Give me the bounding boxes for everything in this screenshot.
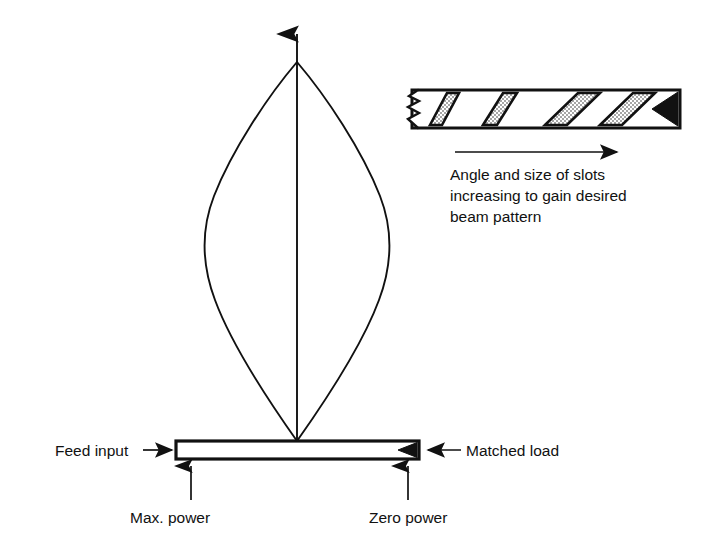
slotted-waveguide-bar xyxy=(176,441,419,459)
inset-caption-line-2: increasing to gain desired xyxy=(450,187,627,204)
zero-power-label: Zero power xyxy=(369,509,447,526)
feed-input-label: Feed input xyxy=(55,442,129,459)
max-power-label: Max. power xyxy=(130,509,210,526)
inset-caption-line-3: beam pattern xyxy=(450,208,541,225)
inset-caption-line-1: Angle and size of slots xyxy=(450,166,605,183)
figure-root: Feed input Matched load Max. power Zero … xyxy=(0,0,713,550)
matched-load-annotation: Matched load xyxy=(428,442,559,459)
waveguide-slot-detail xyxy=(408,90,680,128)
max-power-annotation: Max. power xyxy=(130,466,210,526)
matched-load-label: Matched load xyxy=(466,442,559,459)
inset-caption: Angle and size of slots increasing to ga… xyxy=(450,166,627,225)
jagged-break-icon xyxy=(408,90,419,128)
diagram-canvas: Feed input Matched load Max. power Zero … xyxy=(0,0,713,550)
zero-power-annotation: Zero power xyxy=(369,466,447,526)
feed-input-annotation: Feed input xyxy=(55,442,172,459)
